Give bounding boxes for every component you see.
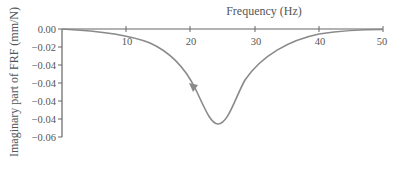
svg-text:−0.06: −0.06 xyxy=(32,132,56,143)
svg-text:30: 30 xyxy=(251,36,262,47)
svg-text:−0.04: −0.04 xyxy=(32,60,57,71)
x-tick-labels: 10 20 30 40 50 xyxy=(122,36,388,47)
svg-text:0.00: 0.00 xyxy=(38,24,56,35)
x-axis-label: Frequency (Hz) xyxy=(226,4,302,18)
frf-chart: 0.00 −0.02 −0.04 −0.04 −0.04 −0.04 −0.06… xyxy=(0,0,393,171)
y-axis-label: Imaginary part of FRF (mm/N) xyxy=(7,7,21,157)
svg-text:−0.02: −0.02 xyxy=(32,42,56,53)
svg-text:−0.04: −0.04 xyxy=(32,114,57,125)
svg-text:−0.04: −0.04 xyxy=(32,78,57,89)
frf-curve xyxy=(62,29,383,124)
svg-text:20: 20 xyxy=(186,36,197,47)
svg-text:50: 50 xyxy=(377,36,388,47)
svg-text:−0.04: −0.04 xyxy=(32,96,57,107)
y-tick-labels: 0.00 −0.02 −0.04 −0.04 −0.04 −0.04 −0.06 xyxy=(32,24,57,143)
svg-text:40: 40 xyxy=(315,36,326,47)
